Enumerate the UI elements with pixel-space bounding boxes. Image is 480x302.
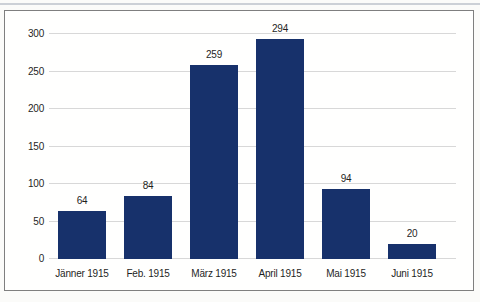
gridline <box>49 71 456 72</box>
figure-page: 64842592949420 Jänner 1915Feb. 1915März … <box>0 0 480 302</box>
bar <box>322 189 370 260</box>
x-axis-label: Juni 1915 <box>372 268 452 279</box>
bar-value-label: 294 <box>250 23 310 34</box>
y-axis-label: 0 <box>12 253 44 265</box>
bar-value-label: 84 <box>118 180 178 191</box>
y-axis-label: 200 <box>12 103 44 115</box>
page-top-rule <box>0 3 480 5</box>
bar <box>190 65 238 259</box>
gridline <box>49 221 456 222</box>
bar-value-label: 94 <box>316 173 376 184</box>
gridline <box>49 108 456 109</box>
gridline <box>49 183 456 184</box>
y-axis-label: 150 <box>12 141 44 153</box>
bar <box>124 196 172 259</box>
bar-value-label: 20 <box>382 228 442 239</box>
bar-value-label: 259 <box>184 49 244 60</box>
bar <box>388 244 436 259</box>
y-axis-label: 50 <box>12 216 44 228</box>
plot-area: 64842592949420 Jänner 1915Feb. 1915März … <box>49 34 456 259</box>
y-axis-label: 250 <box>12 66 44 78</box>
y-axis-label: 300 <box>12 28 44 40</box>
bar-value-label: 64 <box>52 195 112 206</box>
bar <box>256 39 304 260</box>
gridline <box>49 146 456 147</box>
y-axis-label: 100 <box>12 178 44 190</box>
bar <box>58 211 106 259</box>
chart-frame: 64842592949420 Jänner 1915Feb. 1915März … <box>4 10 474 291</box>
